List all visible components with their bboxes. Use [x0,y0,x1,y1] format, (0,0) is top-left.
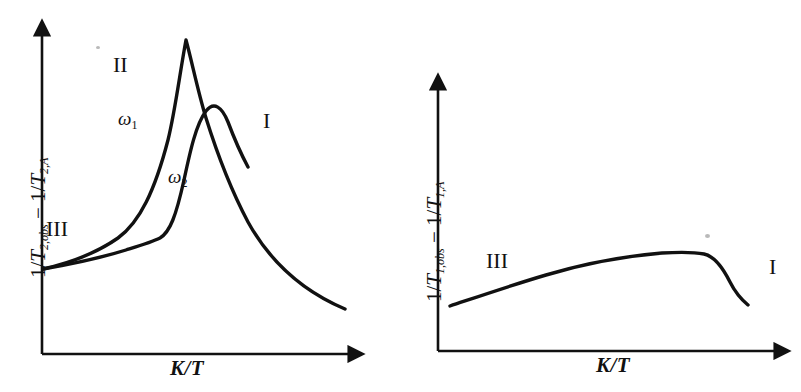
omega1-symbol: ω [118,108,131,129]
region-label-I: I [263,108,270,134]
omega2-symbol: ω [168,166,181,187]
x-axis-label-k: K [170,356,185,380]
omega2-subscript: 2 [181,176,187,190]
x-axis-label-t: T [617,353,630,377]
transverse-plot-svg [0,0,400,392]
longitudinal-relaxation-panel: 1/T1,obs − 1/T1,A K/T III I [400,0,801,392]
curve-omega2 [43,106,248,269]
y-axis-label: 1/T1,obs − 1/T1,A [422,182,448,302]
longitudinal-plot-svg [400,0,801,392]
omega1-subscript: 1 [131,118,137,132]
region-label-III: III [486,248,508,274]
x-axis-label-t: T [191,356,204,380]
x-axis-label-k: K [596,353,611,377]
region-label-II: II [113,52,128,78]
region-label-I: I [769,254,776,280]
scan-speck [96,46,100,49]
curve-label-omega2: ω2 [168,166,187,191]
x-axis-label: K/T [596,353,630,378]
region-label-III: III [46,216,68,242]
figure-root: 1/T2,obs − 1/T2,A K/T II I III ω1 ω2 [0,0,801,392]
curve-label-omega1: ω1 [118,108,137,133]
transverse-relaxation-panel: 1/T2,obs − 1/T2,A K/T II I III ω1 ω2 [0,0,400,392]
curve-omega1 [43,40,345,309]
x-axis-label: K/T [170,356,204,381]
scan-speck [705,234,710,238]
